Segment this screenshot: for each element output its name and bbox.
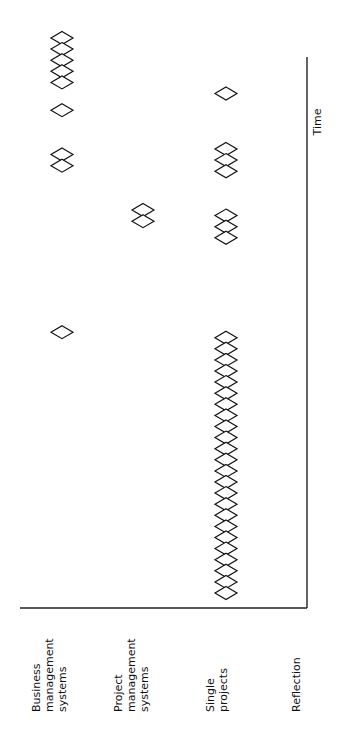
row-label-line: management xyxy=(125,638,138,712)
row-label-line: projects xyxy=(217,668,230,712)
diamond-marker-business xyxy=(51,326,73,339)
row-label-business: Businessmanagementsystems xyxy=(30,638,69,712)
row-label-line: Single xyxy=(204,678,217,712)
row-label-line: Business xyxy=(30,663,43,712)
diamond-marker-project xyxy=(132,215,154,228)
diamond-marker-business xyxy=(51,76,73,89)
row-label-project: Projectmanagementsystems xyxy=(112,638,151,712)
diamond-marker-business xyxy=(51,104,73,117)
row-label-line: Project xyxy=(112,674,125,712)
row-label-reflection: Reflection xyxy=(290,657,303,712)
row-label-line: systems xyxy=(138,666,151,712)
time-axis-label: Time xyxy=(311,108,324,136)
row-label-line: management xyxy=(43,638,56,712)
row-label-line: Reflection xyxy=(290,657,303,712)
diamond-marker-single xyxy=(215,87,237,100)
diagram-canvas: Time BusinessmanagementsystemsProjectman… xyxy=(0,0,341,732)
diamond-marker-business xyxy=(51,159,73,172)
row-label-single: Singleprojects xyxy=(204,668,230,712)
diamond-marker-single xyxy=(215,165,237,178)
row-label-line: systems xyxy=(56,666,69,712)
diamond-marker-single xyxy=(215,231,237,244)
diamond-marker-single xyxy=(215,587,237,600)
timeline-diagram: Time BusinessmanagementsystemsProjectman… xyxy=(0,0,341,732)
